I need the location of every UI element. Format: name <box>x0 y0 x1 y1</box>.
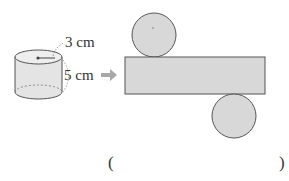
right-arrow-icon <box>101 69 117 81</box>
answer-blank[interactable] <box>120 154 275 172</box>
answer-open-paren: ( <box>108 154 114 171</box>
cylinder-icon <box>15 43 69 99</box>
lateral-rectangle <box>125 57 265 94</box>
cylinder-net <box>125 13 265 138</box>
top-circle <box>132 13 176 57</box>
radius-label: 3 cm <box>65 35 95 50</box>
bottom-circle <box>212 94 256 138</box>
height-label: 5 cm <box>64 68 94 83</box>
answer-close-paren: ) <box>279 154 285 171</box>
